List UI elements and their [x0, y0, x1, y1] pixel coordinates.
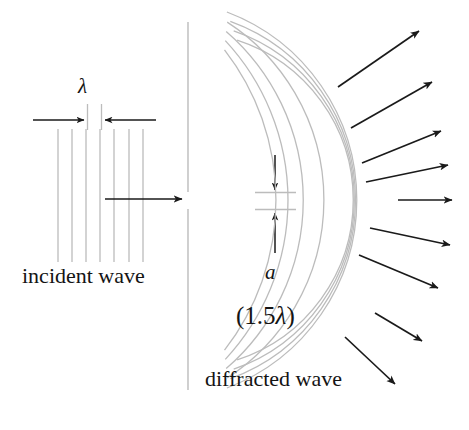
diffracted-wave-label: diffracted wave: [205, 368, 342, 390]
slit-width-value-open: (1.5: [236, 302, 276, 329]
slit-width-value-close: ): [286, 302, 294, 329]
slit-width-value-label: (1.5λ): [236, 303, 295, 328]
wavelength-label: λ: [78, 76, 87, 97]
slit-width-label: a: [265, 262, 276, 283]
incident-wave-label: incident wave: [22, 265, 145, 287]
slit-width-value-lambda: λ: [276, 302, 287, 329]
